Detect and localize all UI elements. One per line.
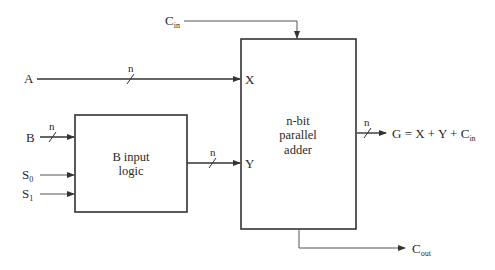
b-input-logic-line1: B input: [100, 150, 162, 164]
g-output-label: G = X + Y + Cin: [392, 127, 476, 143]
x-port-label: X: [245, 73, 254, 86]
s0-label: S0: [22, 168, 33, 184]
adder-text: n-bit parallel adder: [268, 114, 328, 157]
adder-line2: parallel: [268, 128, 328, 142]
b-input-logic-line2: logic: [100, 164, 162, 178]
a-label: A: [24, 72, 33, 85]
b-input-logic-text: B input logic: [100, 150, 162, 179]
adder-line3: adder: [268, 143, 328, 157]
cout-wire: [299, 229, 405, 248]
s1-label: S1: [22, 187, 33, 203]
y-bus-width: n: [210, 147, 216, 158]
g-bus-width: n: [364, 117, 370, 128]
cin-wire: [184, 21, 297, 38]
cout-label: Cout: [412, 242, 431, 258]
a-bus-width: n: [128, 63, 134, 74]
y-port-label: Y: [245, 157, 254, 170]
adder-line1: n-bit: [268, 114, 328, 128]
b-label: B: [26, 131, 35, 144]
b-bus-width: n: [49, 121, 55, 132]
cin-label: Cin: [165, 14, 180, 30]
